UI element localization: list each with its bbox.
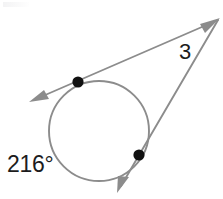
upper-tangent-arrowhead-icon (29, 90, 49, 102)
arc-measure-label: 216° (7, 153, 53, 176)
circle-shape (49, 81, 149, 181)
apex-arrowhead-icon (200, 18, 220, 33)
tangent-length-label: 3 (179, 41, 191, 63)
lower-tangent-ray-line (121, 20, 218, 186)
lower-tangent-arrowhead-icon (117, 176, 129, 193)
upper-left-tangent-point-dot (72, 76, 83, 87)
lower-right-tangent-point-dot (133, 149, 144, 160)
geometry-figure-canvas: 216° 3 (0, 0, 223, 199)
